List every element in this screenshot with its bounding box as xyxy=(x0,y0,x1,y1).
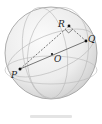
label-Q: Q xyxy=(88,34,96,44)
point-Q xyxy=(85,40,88,43)
sphere-diagram: P O Q R xyxy=(0,0,102,124)
label-O: O xyxy=(54,54,62,64)
figure-caption xyxy=(30,115,72,118)
point-R xyxy=(68,25,71,28)
point-P xyxy=(19,68,22,71)
label-R: R xyxy=(57,19,65,29)
point-O xyxy=(51,53,53,55)
sphere-outline xyxy=(5,7,97,99)
label-P: P xyxy=(10,70,18,80)
